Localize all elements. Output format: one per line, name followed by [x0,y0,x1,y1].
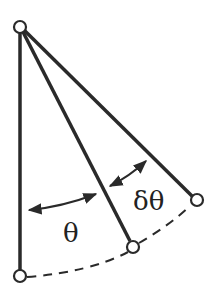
bob-theta [127,241,139,253]
pivot-point [14,21,26,33]
bob-theta-plus-delta [191,194,203,206]
theta-arrow [29,194,96,210]
rod-theta-plus-delta [23,29,192,196]
bob-path-arc [27,206,190,277]
pendulum-diagram: θ δθ [0,0,217,305]
theta-label: θ [63,218,79,248]
delta-theta-label: δθ [133,186,164,216]
rest-bob [14,270,26,282]
delta-theta-arrow [110,161,146,186]
